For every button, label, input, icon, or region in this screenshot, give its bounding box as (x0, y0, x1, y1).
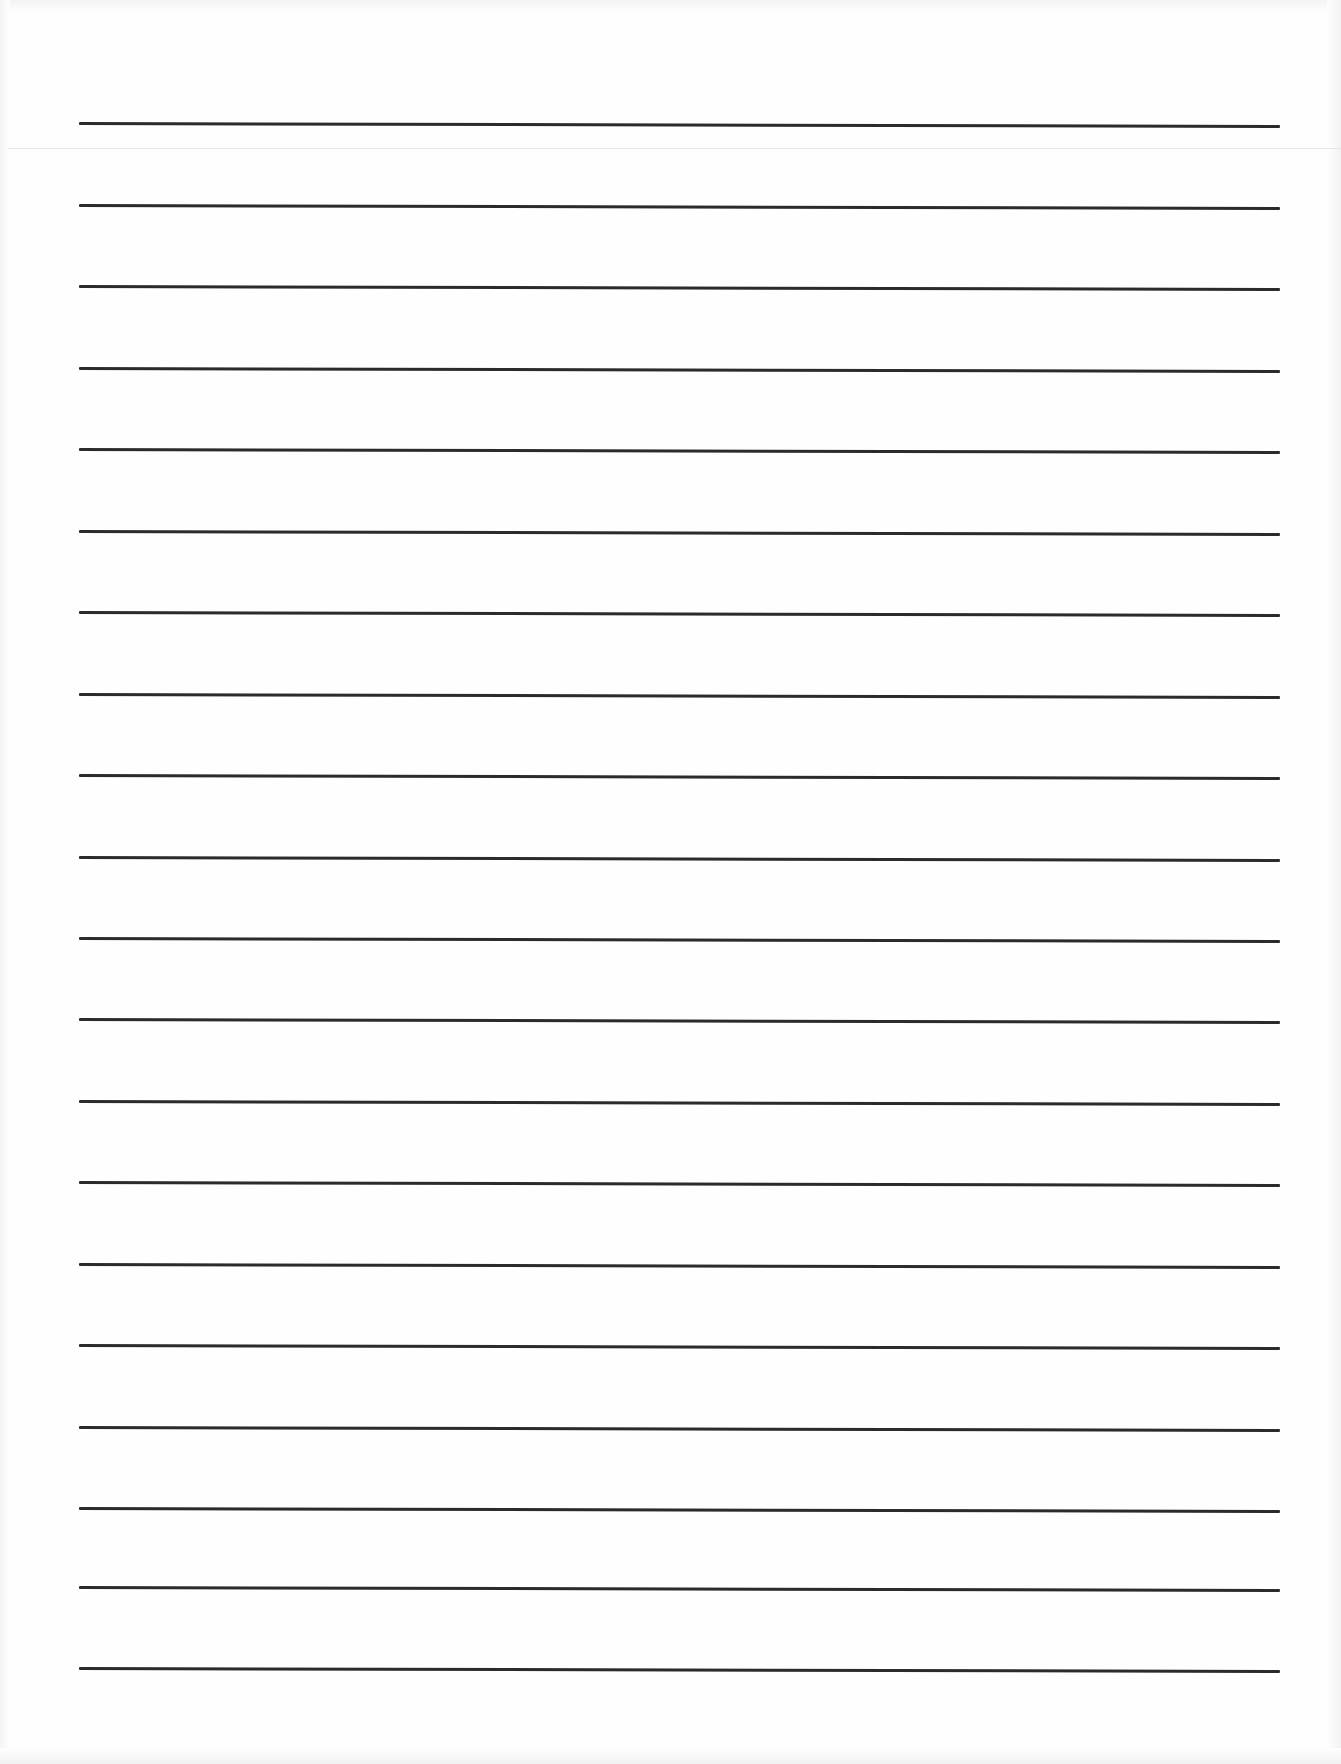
ruled-line (79, 204, 1280, 209)
ruled-line (79, 1507, 1280, 1513)
scan-edge-right (1327, 0, 1341, 1764)
ruled-line (79, 937, 1280, 943)
ruled-line (79, 856, 1280, 862)
ruled-line (79, 448, 1280, 454)
lined-paper-page (0, 0, 1341, 1764)
ruled-line (79, 285, 1280, 291)
scan-edge-top (0, 0, 1341, 12)
ruled-line (79, 1344, 1280, 1350)
scan-edge-left (0, 0, 10, 1764)
ruled-line (79, 1100, 1280, 1106)
ruled-line (79, 1426, 1280, 1432)
ruled-line (79, 1263, 1280, 1269)
ruled-line (79, 122, 1280, 127)
ruled-line (79, 1667, 1280, 1673)
ruled-line (79, 1586, 1280, 1592)
ruled-line (79, 1181, 1280, 1187)
ruled-line (79, 774, 1280, 780)
ruled-line (79, 530, 1280, 536)
ruled-line (79, 693, 1280, 699)
ruled-line (79, 611, 1280, 617)
ruled-line (79, 367, 1280, 373)
fold-line (8, 148, 1341, 149)
ruled-line (79, 1018, 1280, 1024)
scan-edge-bottom (0, 1748, 1341, 1764)
